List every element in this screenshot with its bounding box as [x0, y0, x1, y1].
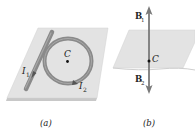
label-field1-sub: 1: [141, 17, 145, 23]
figure-canvas: C I 1 I 2 (a) C B 1 B 2 (b): [0, 0, 195, 134]
caption-a: (a): [40, 118, 52, 128]
label-current1-sub: 1: [26, 71, 30, 78]
plate-b-edge: [113, 68, 195, 70]
label-center-b: C: [152, 54, 159, 64]
panel-a: C I 1 I 2 (a): [6, 28, 108, 128]
caption-b: (b): [143, 118, 155, 128]
label-current2-sub: 2: [83, 86, 87, 93]
center-point-a: [66, 60, 69, 63]
label-center-a: C: [64, 49, 71, 59]
center-point-b: [148, 60, 151, 63]
panel-b: C B 1 B 2 (b): [113, 6, 195, 128]
label-field2-sub: 2: [141, 80, 145, 86]
plate-a-edge: [6, 98, 97, 101]
